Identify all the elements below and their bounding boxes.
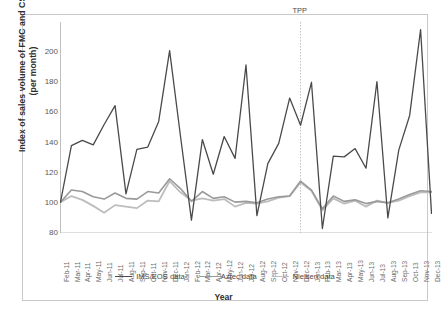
y-axis-label-line1: Index of sales volume of FMC and CSE: [17, 0, 28, 171]
y-tick-label: 100: [30, 198, 58, 207]
x-tick-label: Dec-13: [434, 261, 441, 282]
legend-swatch-icon: [115, 276, 132, 277]
chart-figure: Index of sales volume of FMC and CSE (pe…: [0, 0, 447, 315]
annotation-label-tpp: TPP: [293, 6, 307, 15]
legend-swatch-icon: [200, 276, 217, 277]
x-axis-label: Year: [0, 292, 447, 302]
chart-svg: [60, 22, 432, 233]
y-tick-label: 80: [30, 228, 58, 237]
legend-swatch-icon: [272, 276, 289, 277]
y-tick-label: 140: [30, 138, 58, 147]
series-line-ims-eos-data: [61, 30, 432, 229]
y-axis-tick-labels: 80100120140160180200: [28, 16, 58, 242]
legend-item[interactable]: Aztec data: [200, 272, 257, 281]
legend-item-label: IMS/EOS data: [136, 272, 185, 281]
legend-item[interactable]: Nielsen data: [272, 272, 335, 281]
legend-item[interactable]: IMS/EOS data: [115, 272, 185, 281]
plot-area: [60, 22, 432, 233]
series-line-nielsen-data: [61, 181, 432, 213]
y-tick-label: 200: [30, 47, 58, 56]
legend-item-label: Nielsen data: [293, 272, 335, 281]
y-tick-label: 120: [30, 168, 58, 177]
chart-legend: IMS/EOS dataAztec dataNielsen data: [22, 272, 428, 281]
y-tick-label: 180: [30, 77, 58, 86]
y-tick-label: 160: [30, 107, 58, 116]
legend-item-label: Aztec data: [221, 272, 257, 281]
